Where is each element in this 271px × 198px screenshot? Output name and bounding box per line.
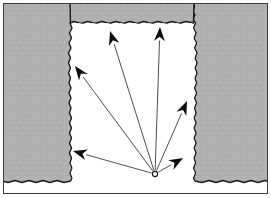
source-point — [152, 171, 157, 176]
figure-container — [0, 0, 271, 198]
gray-block-right — [193, 2, 270, 183]
ray-diagram-svg — [0, 0, 271, 198]
notch-cavity — [70, 23, 196, 192]
gray-block-top-bridge — [70, 2, 194, 24]
gray-block-left — [2, 2, 73, 183]
